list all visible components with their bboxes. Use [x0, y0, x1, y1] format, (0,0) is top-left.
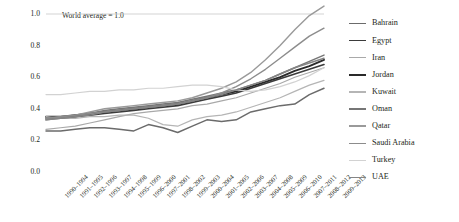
plot-area [46, 14, 324, 172]
legend-item-label: Turkey [372, 156, 395, 164]
legend-swatch-icon [349, 40, 366, 42]
legend-item-label: UAE [372, 173, 389, 181]
series-line-turkey [46, 68, 324, 95]
series-line-uae [46, 58, 324, 120]
legend-item-qatar[interactable]: Qatar [349, 118, 459, 135]
legend-item-bahrain[interactable]: Bahrain [349, 15, 459, 32]
legend-item-kuwait[interactable]: Kuwait [349, 83, 459, 100]
legend-item-iran[interactable]: Iran [349, 49, 459, 66]
legend-item-label: Egypt [372, 37, 392, 45]
legend-item-label: Jordan [372, 71, 394, 79]
legend-swatch-icon [349, 57, 366, 58]
legend-item-jordan[interactable]: Jordan [349, 66, 459, 83]
series-line-bahrain [46, 88, 324, 132]
legend-item-label: Qatar [372, 122, 390, 130]
legend-swatch-icon [349, 23, 366, 25]
x-axis-tick-labels: 1990–19941991–19951992–19961993–19971994… [46, 174, 346, 222]
chart-plot-svg [46, 14, 324, 172]
citation-impact-line-chart: World average = 1.0 Citation impact rela… [0, 0, 459, 222]
legend-swatch-icon [349, 74, 366, 76]
legend-item-oman[interactable]: Oman [349, 100, 459, 117]
legend-swatch-icon [349, 108, 366, 110]
legend-item-label: Oman [372, 105, 392, 113]
y-axis-tick-labels: 0.00.20.40.60.81.0 [14, 14, 40, 172]
legend-swatch-icon [349, 160, 366, 161]
legend-item-saudi-arabia[interactable]: Saudi Arabia [349, 135, 459, 152]
series-line-oman [46, 55, 324, 120]
y-tick-label: 0.4 [18, 105, 40, 113]
chart-legend: BahrainEgyptIranJordanKuwaitOmanQatarSau… [349, 15, 459, 186]
legend-swatch-icon [349, 143, 366, 144]
legend-item-turkey[interactable]: Turkey [349, 152, 459, 169]
legend-item-label: Iran [372, 54, 385, 62]
legend-item-egypt[interactable]: Egypt [349, 32, 459, 49]
y-tick-label: 0.2 [18, 136, 40, 144]
legend-item-label: Bahrain [372, 19, 398, 27]
y-tick-label: 0.0 [18, 168, 40, 176]
legend-item-uae[interactable]: UAE [349, 169, 459, 186]
y-tick-label: 1.0 [18, 10, 40, 18]
legend-swatch-icon [349, 125, 366, 126]
y-tick-label: 0.8 [18, 42, 40, 50]
legend-item-label: Saudi Arabia [372, 139, 415, 147]
legend-swatch-icon [349, 177, 366, 179]
series-line-jordan [46, 60, 324, 117]
legend-item-label: Kuwait [372, 88, 396, 96]
legend-swatch-icon [349, 91, 366, 92]
y-tick-label: 0.6 [18, 73, 40, 81]
